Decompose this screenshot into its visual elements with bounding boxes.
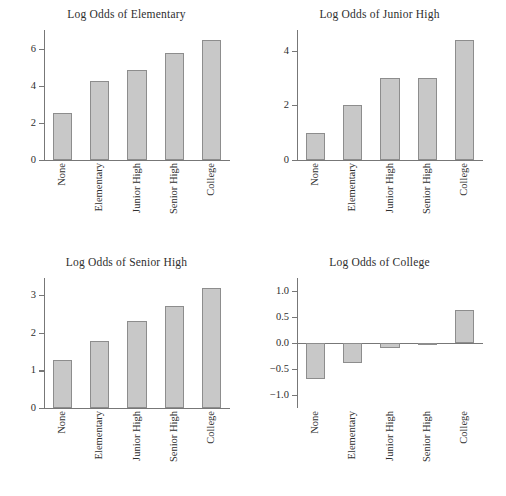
bar: [127, 321, 146, 408]
x-axis-tick-label: Junior High: [385, 411, 396, 461]
x-axis-labels-0: NoneElementaryJunior HighSenior HighColl…: [44, 163, 230, 245]
chart-title: Log Odds of Elementary: [0, 8, 253, 20]
bar: [127, 70, 146, 160]
y-axis-tick: [292, 343, 297, 344]
x-axis-tick-label: College: [206, 411, 217, 444]
plot-area-3: −1.0−0.50.00.51.0: [297, 278, 483, 408]
y-axis-tick: [292, 51, 297, 52]
bar: [418, 343, 437, 345]
bar: [418, 78, 437, 160]
x-axis-tick-label: Elementary: [94, 163, 105, 211]
y-axis-tick: [292, 160, 297, 161]
x-axis-tick-label: College: [459, 163, 470, 196]
bar: [380, 78, 399, 160]
y-axis-tick-label: 6: [31, 43, 36, 54]
bar: [306, 343, 325, 379]
zero-baseline: [297, 160, 483, 161]
chart-title: Log Odds of Junior High: [253, 8, 506, 20]
zero-baseline: [44, 160, 230, 161]
x-axis-tick-label: College: [206, 163, 217, 196]
y-axis-tick-label: 0: [31, 155, 36, 166]
y-axis-tick: [39, 408, 44, 409]
x-axis-labels-1: NoneElementaryJunior HighSenior HighColl…: [297, 163, 483, 245]
y-axis-tick-label: 4: [31, 80, 36, 91]
x-axis-tick-label: Junior High: [132, 163, 143, 213]
x-axis-tick-label: None: [57, 411, 68, 434]
y-axis-tick-label: 0.5: [276, 312, 289, 323]
chart-panel-college: Log Odds of College −1.0−0.50.00.51.0 No…: [253, 248, 506, 496]
x-axis-tick-label: Junior High: [385, 163, 396, 213]
x-axis-tick-label: Senior High: [169, 411, 180, 462]
chart-panel-junior-high: Log Odds of Junior High 024 NoneElementa…: [253, 0, 506, 248]
y-axis-tick: [39, 295, 44, 296]
y-axis-tick-label: 2: [31, 327, 36, 338]
y-axis-tick: [39, 123, 44, 124]
bar: [90, 341, 109, 408]
x-axis-tick-label: Senior High: [169, 163, 180, 214]
x-axis-labels-2: NoneElementaryJunior HighSenior HighColl…: [44, 411, 230, 493]
x-axis-tick-label: Senior High: [422, 411, 433, 462]
y-axis-tick: [292, 369, 297, 370]
chart-panel-elementary: Log Odds of Elementary 0246 NoneElementa…: [0, 0, 253, 248]
x-axis-tick-label: None: [310, 411, 321, 434]
y-axis-tick-label: 0.0: [276, 338, 289, 349]
bar: [343, 105, 362, 160]
y-axis-tick-label: 2: [284, 100, 289, 111]
bar: [380, 343, 399, 348]
chart-title: Log Odds of Senior High: [0, 256, 253, 268]
y-axis-tick-label: 0: [284, 155, 289, 166]
x-axis-tick-label: Elementary: [347, 163, 358, 211]
y-axis-tick: [292, 291, 297, 292]
y-axis-tick: [39, 160, 44, 161]
y-axis-tick-label: 0: [31, 403, 36, 414]
y-axis-tick: [39, 370, 44, 371]
bar: [455, 40, 474, 160]
y-axis-tick-label: 1: [31, 365, 36, 376]
y-axis-tick-label: 3: [31, 290, 36, 301]
bar: [165, 53, 184, 160]
plot-area-2: 0123: [44, 278, 230, 408]
bar: [343, 343, 362, 363]
y-axis-tick: [39, 333, 44, 334]
y-axis-line: [44, 30, 45, 160]
bar: [90, 81, 109, 160]
y-axis-tick-label: 1.0: [276, 286, 289, 297]
chart-title: Log Odds of College: [253, 256, 506, 268]
plot-area-1: 024: [297, 30, 483, 160]
bar: [202, 40, 221, 160]
zero-baseline: [44, 408, 230, 409]
y-axis-tick-label: 2: [31, 118, 36, 129]
x-axis-tick-label: College: [459, 411, 470, 444]
y-axis-line: [44, 278, 45, 408]
bar: [202, 288, 221, 408]
y-axis-tick: [292, 395, 297, 396]
x-axis-tick-label: None: [310, 163, 321, 186]
y-axis-tick: [39, 49, 44, 50]
y-axis-tick-label: −1.0: [270, 390, 289, 401]
bar: [455, 310, 474, 343]
x-axis-tick-label: None: [57, 163, 68, 186]
y-axis-line: [297, 30, 298, 160]
y-axis-tick: [39, 86, 44, 87]
bar: [53, 113, 72, 160]
y-axis-tick-label: −0.5: [270, 364, 289, 375]
chart-grid: Log Odds of Elementary 0246 NoneElementa…: [0, 0, 506, 496]
y-axis-tick-label: 4: [284, 45, 289, 56]
plot-area-0: 0246: [44, 30, 230, 160]
x-axis-tick-label: Junior High: [132, 411, 143, 461]
x-axis-tick-label: Elementary: [347, 411, 358, 459]
bar: [306, 133, 325, 160]
x-axis-labels-3: NoneElementaryJunior HighSenior HighColl…: [297, 411, 483, 493]
y-axis-tick: [292, 317, 297, 318]
bar: [53, 360, 72, 408]
bar: [165, 306, 184, 408]
x-axis-tick-label: Elementary: [94, 411, 105, 459]
y-axis-tick: [292, 105, 297, 106]
x-axis-tick-label: Senior High: [422, 163, 433, 214]
chart-panel-senior-high: Log Odds of Senior High 0123 NoneElement…: [0, 248, 253, 496]
